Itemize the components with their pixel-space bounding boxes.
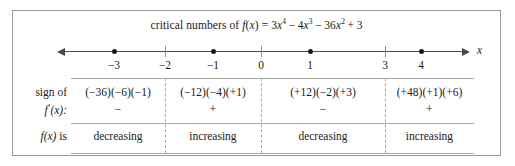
critical-point-dot	[419, 49, 424, 54]
cell-sign: −	[261, 102, 385, 117]
tick-label: 3	[365, 59, 405, 71]
term-3-coef: 36	[324, 19, 336, 31]
cell-factors: (−12)(−4)(+1)	[165, 86, 261, 98]
cell-sign: +	[385, 102, 474, 117]
figure-container: critical numbers of f(x) = 3x4−4x3−36x2+…	[12, 10, 501, 156]
cell-sign: +	[165, 102, 261, 117]
critical-point-dot	[112, 49, 117, 54]
cell-behavior: decreasing	[261, 130, 385, 142]
term-3-op: −	[313, 19, 325, 31]
equals-sign: =	[262, 19, 269, 31]
tick-label: 4	[401, 59, 441, 71]
term-3: 36x2	[324, 19, 345, 31]
row-label-f-prime-arg: (x):	[50, 104, 67, 116]
number-line: x −3 −2 −1 0 1 3 4	[13, 42, 500, 76]
function-paren-close: )	[255, 19, 259, 31]
table-rule-bottom	[71, 153, 474, 154]
title-prefix: critical numbers of	[151, 19, 240, 31]
tick-mark	[165, 46, 166, 57]
tick-label: 1	[290, 59, 330, 71]
row-label-f-prime: f′(x):	[13, 102, 67, 116]
cell-sign: −	[71, 102, 165, 117]
critical-point-dot	[211, 49, 216, 54]
sign-analysis-table: sign of f′(x): f(x) is (−36)(−6)(−1) − d…	[13, 77, 500, 157]
axis-line	[61, 51, 466, 52]
axis-variable-label: x	[477, 44, 482, 56]
axis-right-arrow-icon	[462, 48, 470, 56]
term-1: 3x4	[271, 19, 286, 31]
cell-behavior: increasing	[165, 130, 261, 142]
behavior-arg: (x)	[44, 130, 57, 142]
row-label-sign-of: sign of	[13, 86, 67, 98]
term-2-op: −	[286, 19, 298, 31]
cell-factors: (+12)(−2)(+3)	[261, 86, 385, 98]
tick-label: −3	[94, 59, 134, 71]
tick-label: −1	[193, 59, 233, 71]
behavior-verb: is	[59, 130, 67, 142]
term-4-op: +	[345, 19, 357, 31]
cell-behavior: increasing	[385, 130, 474, 142]
cell-factors: (+48)(+1)(+6)	[385, 86, 474, 98]
figure-title: critical numbers of f(x) = 3x4−4x3−36x2+…	[13, 19, 500, 31]
title-function: f(x) = 3x4−4x3−36x2+3	[242, 19, 362, 31]
tick-label: −2	[145, 59, 185, 71]
tick-label: 0	[241, 59, 281, 71]
cell-factors: (−36)(−6)(−1)	[71, 86, 165, 98]
critical-point-dot	[308, 49, 313, 54]
term-2: 4x3	[298, 19, 313, 31]
row-label-f-behavior: f(x) is	[13, 130, 67, 142]
term-4: 3	[357, 19, 363, 31]
term-4-coef: 3	[357, 19, 363, 31]
table-rule-top	[71, 78, 474, 79]
axis-left-arrow-icon	[57, 48, 65, 56]
cell-behavior: decreasing	[71, 130, 165, 142]
tick-mark	[385, 46, 386, 57]
tick-mark	[261, 46, 262, 57]
table-rule-middle	[71, 123, 474, 124]
